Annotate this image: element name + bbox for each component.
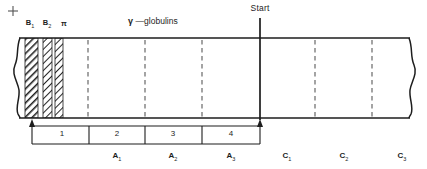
band-B2 (43, 38, 52, 118)
fraction-label-c3: C3 (397, 152, 406, 162)
fraction-label-a2: A2 (168, 152, 177, 162)
band-label-pi: π (61, 20, 67, 28)
start-label: Start (251, 4, 270, 13)
fraction-label-a3: A3 (226, 152, 235, 162)
gamma-globulins-text: —globulins (136, 16, 178, 26)
band-pi (55, 38, 63, 118)
protein-bands-group (25, 38, 63, 118)
arrow-left-up-icon (29, 119, 35, 127)
fraction-label-c2: C2 (339, 152, 348, 162)
segment-label-2: 2 (115, 130, 119, 138)
gamma-globulins-label: γ —globulins (128, 17, 178, 26)
strip-body (14, 38, 415, 118)
band-B1 (25, 38, 38, 118)
polarity-plus-icon (8, 6, 18, 16)
arrow-right-up-icon (257, 119, 263, 127)
segment-label-3: 3 (171, 130, 175, 138)
segment-label-1: 1 (60, 130, 64, 138)
electrophoresis-strip-figure: B1 B2 π γ —globulins Start 1 2 3 4 A1 A2… (0, 0, 427, 169)
band-label-b2: B2 (43, 19, 52, 29)
segment-label-4: 4 (229, 130, 233, 138)
band-label-b1: B1 (26, 19, 35, 29)
gamma-symbol: γ (128, 16, 133, 26)
fraction-label-c1: C1 (282, 152, 291, 162)
fraction-label-a1: A1 (112, 152, 121, 162)
segment-bracket (32, 126, 260, 144)
